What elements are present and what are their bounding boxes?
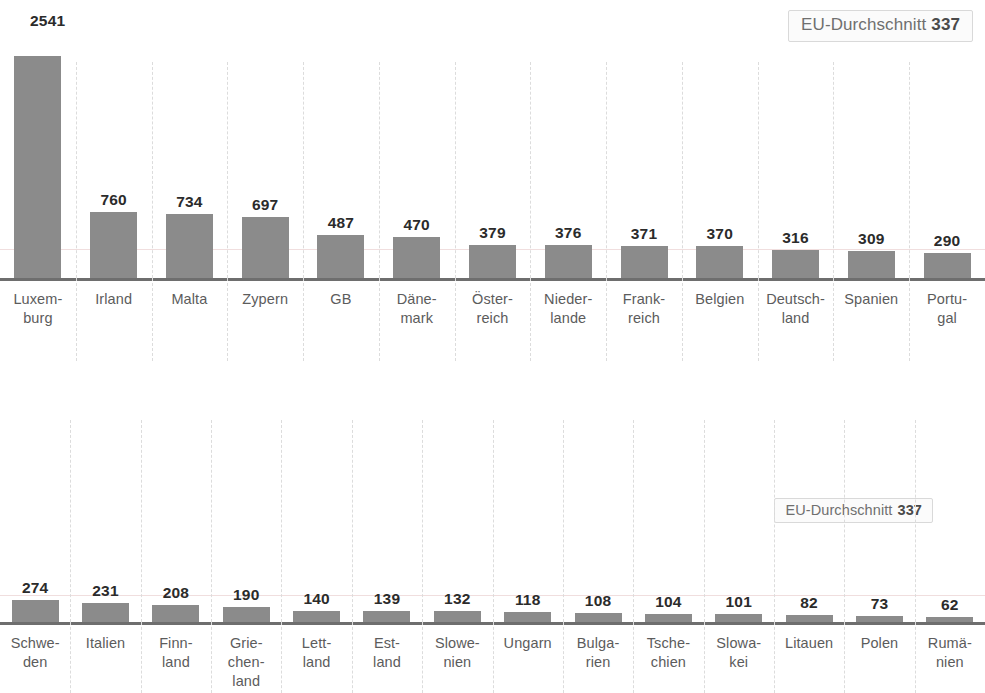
category-label-line: Öster- bbox=[455, 290, 531, 309]
bar-column: 139 bbox=[352, 416, 422, 622]
bar-chart-top: 2541760734697487470379376371370316309290… bbox=[0, 56, 985, 361]
category-label-line: Tsche- bbox=[633, 634, 703, 653]
bar-group: 190 bbox=[211, 416, 281, 622]
category-label: Malta bbox=[152, 284, 228, 361]
plot-area-bottom: 274231208190140139132118108104101827362 bbox=[0, 416, 985, 622]
bar bbox=[504, 612, 551, 622]
bar-group: 104 bbox=[633, 416, 703, 622]
bar-group: 760 bbox=[76, 56, 152, 278]
eu-average-badge-top: EU-Durchschnitt337 bbox=[788, 10, 973, 42]
category-label: Tsche-chien bbox=[633, 628, 703, 693]
bar-column: 108 bbox=[563, 416, 633, 622]
bar-group: 274 bbox=[0, 416, 70, 622]
category-label: Italien bbox=[70, 628, 140, 693]
bar-value-label: 470 bbox=[403, 217, 429, 233]
bar-column: 760 bbox=[76, 56, 152, 278]
category-labels-top: Luxem-burgIrlandMaltaZypernGBDäne-markÖs… bbox=[0, 284, 985, 361]
category-label: Rumä-nien bbox=[915, 628, 985, 693]
bar-group: 376 bbox=[530, 56, 606, 278]
bar bbox=[242, 217, 289, 278]
bar bbox=[772, 250, 819, 278]
bar-column: 82 bbox=[774, 416, 844, 622]
bar-column: 132 bbox=[422, 416, 492, 622]
bar bbox=[317, 235, 364, 278]
category-label: Bulga-rien bbox=[563, 628, 633, 693]
category-label-line: mark bbox=[379, 309, 455, 328]
bar-value-label: 376 bbox=[555, 225, 581, 241]
bar-column: 370 bbox=[682, 56, 758, 278]
bar-group: 73 bbox=[844, 416, 914, 622]
category-label: GB bbox=[303, 284, 379, 361]
category-label-line: nien bbox=[915, 653, 985, 672]
category-label-line: Ungarn bbox=[493, 634, 563, 653]
bar bbox=[645, 614, 692, 622]
bar-column: 2541 bbox=[0, 56, 76, 278]
bar bbox=[434, 611, 481, 622]
bar-column: 101 bbox=[704, 416, 774, 622]
category-label: Slowe-nien bbox=[422, 628, 492, 693]
bar bbox=[166, 214, 213, 278]
bar bbox=[90, 212, 137, 278]
category-label-line: reich bbox=[455, 309, 531, 328]
bar bbox=[152, 605, 199, 622]
category-label: Spanien bbox=[833, 284, 909, 361]
category-label-line: Däne- bbox=[379, 290, 455, 309]
category-label-line: Italien bbox=[70, 634, 140, 653]
category-label-line: nien bbox=[422, 653, 492, 672]
category-label-line: Portu- bbox=[909, 290, 985, 309]
bar bbox=[293, 611, 340, 622]
plot-area-top: 2541760734697487470379376371370316309290 bbox=[0, 56, 985, 278]
bar-column: 104 bbox=[633, 416, 703, 622]
category-label: Slowa-kei bbox=[704, 628, 774, 693]
bar-value-label: 371 bbox=[631, 226, 657, 242]
bar-value-label: 290 bbox=[934, 233, 960, 249]
bar-column: 470 bbox=[379, 56, 455, 278]
bar-value-label: 82 bbox=[800, 595, 818, 611]
bar-value-label: 118 bbox=[515, 592, 541, 608]
bar-group: 734 bbox=[152, 56, 228, 278]
category-label-line: land bbox=[211, 672, 281, 691]
category-label-line: land bbox=[758, 309, 834, 328]
category-label-line: Lett- bbox=[281, 634, 351, 653]
bar-value-label: 231 bbox=[92, 583, 118, 599]
bar bbox=[223, 607, 270, 622]
category-label: Grie-chen-land bbox=[211, 628, 281, 693]
bar-value-label: 370 bbox=[707, 226, 733, 242]
category-label-line: Polen bbox=[844, 634, 914, 653]
category-label-line: chien bbox=[633, 653, 703, 672]
bar-column: 190 bbox=[211, 416, 281, 622]
eu-average-badge-top-value: 337 bbox=[931, 15, 960, 34]
bar bbox=[575, 613, 622, 622]
category-label-line: Est- bbox=[352, 634, 422, 653]
category-label-line: land bbox=[352, 653, 422, 672]
category-label-line: Deutsch- bbox=[758, 290, 834, 309]
bar-group: 140 bbox=[281, 416, 351, 622]
bar-value-label: 274 bbox=[22, 580, 48, 596]
chart-header: 2541 EU-Durchschnitt337 bbox=[0, 0, 985, 56]
max-value-label: 2541 bbox=[30, 12, 65, 30]
bar-column: 208 bbox=[141, 416, 211, 622]
category-label: Irland bbox=[76, 284, 152, 361]
category-label-line: Irland bbox=[76, 290, 152, 309]
bar-columns-bottom: 274231208190140139132118108104101827362 bbox=[0, 416, 985, 622]
bar-group: 470 bbox=[379, 56, 455, 278]
bar-group: 208 bbox=[141, 416, 211, 622]
bar-value-label: 316 bbox=[782, 230, 808, 246]
bar-column: 62 bbox=[915, 416, 985, 622]
bar-column: 231 bbox=[70, 416, 140, 622]
category-labels-bottom: Schwe-denItalienFinn-landGrie-chen-landL… bbox=[0, 628, 985, 693]
bar-value-label: 132 bbox=[444, 591, 470, 607]
category-label-line: reich bbox=[606, 309, 682, 328]
bar-group: 290 bbox=[909, 56, 985, 278]
category-label: Polen bbox=[844, 628, 914, 693]
bar bbox=[696, 246, 743, 278]
bar-value-label: 104 bbox=[655, 594, 681, 610]
bar-group: 108 bbox=[563, 416, 633, 622]
category-label: Däne-mark bbox=[379, 284, 455, 361]
bar-column: 140 bbox=[281, 416, 351, 622]
bar-chart-bottom: 274231208190140139132118108104101827362 … bbox=[0, 416, 985, 693]
bar bbox=[82, 603, 129, 622]
bar bbox=[469, 245, 516, 278]
category-label-line: rien bbox=[563, 653, 633, 672]
category-label-line: Slowe- bbox=[422, 634, 492, 653]
